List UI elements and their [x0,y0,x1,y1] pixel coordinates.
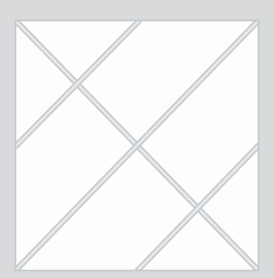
figure-canvas [0,0,274,278]
lattice-diagram [0,0,274,278]
